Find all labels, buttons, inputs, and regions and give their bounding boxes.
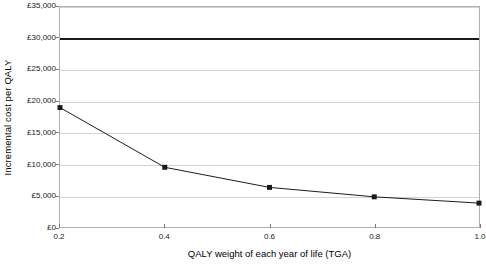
y-axis-tick-label: £10,000	[10, 161, 56, 169]
data-point-marker	[372, 194, 377, 199]
x-axis-tick-mark	[59, 224, 60, 228]
x-axis-tick-label: 0.4	[159, 232, 170, 242]
y-axis-tick-label: £20,000	[10, 97, 56, 105]
y-axis-tick-label: £5,000	[10, 192, 56, 200]
y-axis-tick-label: £35,000	[10, 2, 56, 10]
y-axis-tick-label: £30,000	[10, 34, 56, 42]
data-point-marker	[267, 185, 272, 190]
plot-area	[59, 6, 480, 228]
series-markers	[58, 105, 482, 205]
x-axis-tick-mark	[375, 224, 376, 228]
data-point-marker	[162, 165, 167, 170]
x-axis-tick-labels: 0.20.40.60.81.0	[59, 232, 480, 244]
x-axis-tick-label: 0.2	[53, 232, 64, 242]
x-axis-tick-mark	[270, 224, 271, 228]
data-point-marker	[58, 105, 63, 110]
x-axis-tick-mark	[480, 224, 481, 228]
data-series	[60, 7, 479, 227]
x-axis-title: QALY weight of each year of life (TGA)	[59, 248, 480, 259]
data-point-marker	[477, 201, 482, 206]
x-axis-tick-label: 0.6	[264, 232, 275, 242]
y-axis-tick-label: £15,000	[10, 129, 56, 137]
y-axis-tick-labels: £0£5,000£10,000£15,000£20,000£25,000£30,…	[8, 0, 56, 235]
x-axis-tick-label: 1.0	[474, 232, 485, 242]
x-axis-tick-mark	[164, 224, 165, 228]
y-axis-tick-label: £25,000	[10, 65, 56, 73]
x-axis-tick-label: 0.8	[369, 232, 380, 242]
y-axis-tick-label: £0	[10, 224, 56, 232]
